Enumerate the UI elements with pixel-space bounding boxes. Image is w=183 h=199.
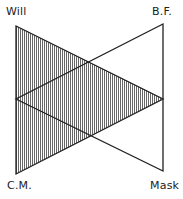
triangle-diagram	[0, 0, 183, 199]
label-mask: Mask	[150, 180, 179, 191]
label-bf: B.F.	[152, 6, 172, 17]
label-cm: C.M.	[7, 180, 32, 191]
shaded-triangle	[16, 26, 163, 174]
label-will: Will	[6, 6, 27, 17]
